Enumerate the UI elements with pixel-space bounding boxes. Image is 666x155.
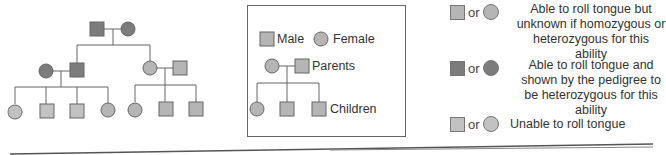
key-unknown: or Able to roll tongue but unknown if ho… bbox=[450, 4, 666, 62]
female-label: Female bbox=[333, 32, 375, 46]
g2-female-unknown bbox=[143, 61, 157, 75]
male-unable-swatch bbox=[450, 117, 465, 132]
key-unable: or Unable to roll tongue bbox=[450, 116, 625, 132]
g3-female-unknown bbox=[101, 103, 115, 117]
key-unknown-text: Able to roll tongue but unknown if homoz… bbox=[516, 2, 666, 62]
male-heterozygous-swatch bbox=[450, 61, 465, 76]
symbol-legend-box: Male Female Parents Children bbox=[247, 5, 406, 137]
g3-male-unable bbox=[70, 104, 84, 118]
parent-female-icon bbox=[265, 59, 279, 73]
g2-female-heterozygous bbox=[39, 64, 53, 78]
g2-male-heterozygous bbox=[70, 63, 84, 77]
male-label: Male bbox=[277, 32, 304, 46]
male-icon bbox=[260, 32, 274, 46]
male-unknown-swatch bbox=[450, 5, 465, 20]
g3-male-unknown bbox=[159, 102, 173, 116]
key-heterozygous-text: Able to roll tongue and shown by the ped… bbox=[516, 58, 666, 118]
bottom-rule bbox=[0, 140, 653, 155]
female-unable-swatch bbox=[483, 116, 499, 132]
g2-male-unknown bbox=[173, 61, 187, 75]
parents-label: Parents bbox=[312, 59, 355, 73]
child-male-icon bbox=[312, 102, 326, 116]
or-label: or bbox=[468, 61, 480, 76]
or-label: or bbox=[468, 5, 480, 20]
pedigree-chart bbox=[0, 0, 240, 135]
child-female-icon bbox=[250, 102, 264, 116]
g3-male-unable bbox=[40, 104, 54, 118]
female-unknown-swatch bbox=[483, 4, 499, 20]
child-male-icon bbox=[280, 102, 294, 116]
parent-male-icon bbox=[295, 59, 309, 73]
female-icon bbox=[314, 32, 328, 46]
key-heterozygous: or Able to roll tongue and shown by the … bbox=[450, 60, 666, 118]
g3-female-unable bbox=[8, 105, 22, 119]
g3-female-unknown bbox=[128, 103, 142, 117]
key-unable-text: Unable to roll tongue bbox=[510, 117, 625, 131]
children-label: Children bbox=[330, 102, 377, 116]
g1-female-heterozygous bbox=[121, 22, 135, 36]
female-heterozygous-swatch bbox=[483, 60, 499, 76]
or-label: or bbox=[468, 117, 480, 132]
g1-male-heterozygous bbox=[90, 22, 104, 36]
g3-male-unknown bbox=[189, 102, 203, 116]
